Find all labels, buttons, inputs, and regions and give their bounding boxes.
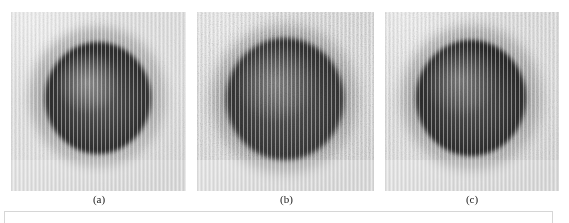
atom-cloud-halo (401, 25, 543, 171)
imaging-beam-background (11, 12, 186, 191)
caption-box (4, 211, 553, 223)
figure-root: (a) (b) (c) (0, 0, 569, 223)
shot-noise-grain (385, 12, 559, 160)
ccd-scanline-overlay (385, 12, 559, 191)
atom-cloud-body (45, 42, 151, 154)
ccd-scanline-overlay (11, 12, 186, 191)
panel-label-c: (c) (375, 193, 569, 206)
atom-cloud-halo (29, 26, 167, 168)
absorption-image-panel-b (197, 12, 374, 191)
shot-noise-grain (11, 12, 186, 160)
atom-cloud-body (226, 38, 344, 160)
panel-row: (a) (b) (c) (0, 0, 569, 210)
panel-label-a: (a) (0, 193, 198, 206)
ccd-scanline-overlay (197, 12, 374, 191)
imaging-beam-background (197, 12, 374, 191)
imaging-beam-background (385, 12, 559, 191)
atom-cloud-body (416, 40, 526, 156)
absorption-image-panel-a (11, 12, 186, 191)
panel-label-b: (b) (198, 193, 375, 206)
atom-cloud-halo (211, 24, 359, 174)
shot-noise-grain (197, 12, 374, 160)
absorption-image-panel-c (385, 12, 559, 191)
